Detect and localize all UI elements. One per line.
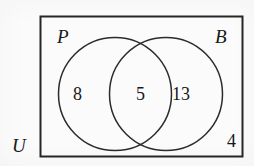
- universal-set-label: U: [12, 136, 26, 155]
- set-circle-b: [110, 38, 223, 151]
- venn-diagram-figure: P B U 8 5 13 4: [0, 0, 254, 166]
- set-label-b: B: [215, 27, 227, 46]
- region-count-b-only: 13: [172, 85, 190, 103]
- venn-diagram-canvas: [0, 0, 254, 166]
- region-count-intersection: 5: [136, 85, 145, 103]
- region-count-p-only: 8: [73, 85, 82, 103]
- set-label-p: P: [57, 27, 69, 46]
- region-count-outside: 4: [227, 132, 236, 150]
